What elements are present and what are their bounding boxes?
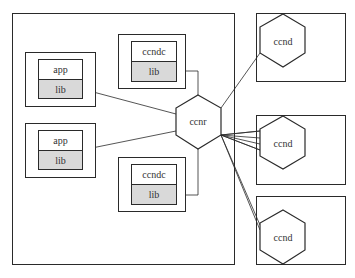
ccndc-group-2: ccndc lib [119, 158, 186, 212]
lib-label: lib [55, 155, 66, 166]
ccnd-daemon-1: ccnd [260, 14, 305, 67]
ccnr-router: ccnr [176, 95, 221, 149]
ccnd-label: ccnd [274, 138, 293, 149]
app-group-1: app lib [26, 53, 96, 107]
lib-label: lib [55, 84, 66, 95]
ccndc-label: ccndc [142, 169, 166, 180]
ccndc-label: ccndc [142, 46, 166, 57]
app-label: app [53, 135, 67, 146]
ccnr-label: ccnr [189, 116, 207, 127]
app-label: app [53, 64, 67, 75]
ccnd-daemon-3: ccnd [260, 210, 305, 264]
lib-label: lib [149, 66, 160, 77]
ccnd-label: ccnd [274, 36, 293, 47]
lib-label: lib [149, 189, 160, 200]
app-group-2: app lib [26, 124, 96, 178]
ccnd-daemon-2: ccnd [260, 116, 305, 169]
ccndc-group-1: ccndc lib [119, 35, 186, 89]
connection-overlay [221, 131, 260, 150]
network-diagram: app lib app lib ccndc lib ccndc lib ccnr… [0, 0, 355, 278]
ccnd-label: ccnd [274, 232, 293, 243]
